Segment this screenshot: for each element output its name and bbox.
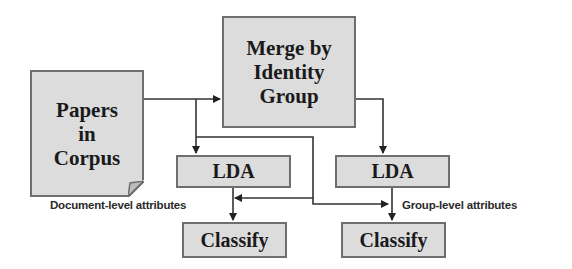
merge-by-identity-group-node: Merge by Identity Group [222,16,356,128]
papers-line-1: Papers [54,98,121,122]
document-level-attributes-label: Document-level attributes [50,199,186,211]
group-level-attributes-label: Group-level attributes [402,199,517,211]
merge-line-2: Identity [246,60,332,84]
merge-line-3: Group [246,84,332,108]
lda-right-label: LDA [371,160,413,183]
classify-right-label: Classify [360,229,428,252]
merge-line-1: Merge by [246,36,332,60]
papers-in-corpus-node: Papers in Corpus [30,70,144,197]
classify-right-node: Classify [341,222,446,258]
folded-corner-icon [128,181,144,197]
papers-line-3: Corpus [54,146,121,170]
pipeline-diagram: Papers in Corpus Merge by Identity Group… [0,0,572,269]
classify-left-node: Classify [182,222,287,258]
classify-left-label: Classify [201,229,269,252]
papers-line-2: in [54,122,121,146]
lda-left-label: LDA [212,160,254,183]
lda-right-node: LDA [335,155,450,188]
lda-left-node: LDA [176,155,291,188]
